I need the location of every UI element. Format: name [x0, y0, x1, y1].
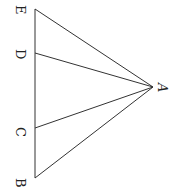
- point-label-a: A: [155, 82, 170, 92]
- segment-AD: [35, 53, 153, 87]
- segment-AB: [35, 87, 153, 178]
- point-label-e: E: [13, 5, 28, 15]
- point-label-d: D: [13, 49, 28, 59]
- point-label-c: C: [13, 127, 28, 137]
- triangle-diagram: E D C B A: [0, 0, 177, 194]
- segment-AE: [35, 9, 153, 87]
- point-label-b: B: [13, 178, 28, 188]
- segment-AC: [35, 87, 153, 128]
